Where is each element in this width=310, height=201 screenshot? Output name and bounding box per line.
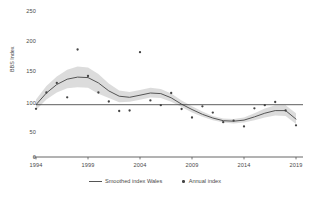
data-point xyxy=(284,109,286,111)
data-point xyxy=(35,108,37,110)
y-tick-label-50: 50 xyxy=(20,129,36,135)
data-point xyxy=(56,82,58,84)
data-point xyxy=(108,100,110,102)
data-point xyxy=(170,92,172,94)
data-point xyxy=(243,125,245,127)
data-point xyxy=(295,124,297,126)
data-point xyxy=(201,105,203,107)
chart-legend: Smoothed index Wales Annual index xyxy=(0,178,310,185)
y-axis-title: BBS Index xyxy=(9,32,15,72)
dot-swatch-icon xyxy=(182,180,184,182)
data-point xyxy=(149,99,151,101)
data-point xyxy=(222,121,224,123)
data-point xyxy=(264,104,266,106)
x-tick-label-2019: 2019 xyxy=(285,162,307,168)
line-swatch-icon xyxy=(89,181,102,182)
data-point xyxy=(232,119,234,121)
data-point xyxy=(128,109,130,111)
x-tick-label-1994: 1994 xyxy=(25,162,47,168)
y-tick-label-0: 0 xyxy=(20,154,36,160)
data-point xyxy=(253,107,255,109)
data-point xyxy=(118,110,120,112)
chart-plot-area xyxy=(0,0,310,201)
data-point xyxy=(139,51,141,53)
x-tick-label-2014: 2014 xyxy=(233,162,255,168)
y-tick-label-100: 100 xyxy=(20,100,36,106)
x-tick-label-2004: 2004 xyxy=(129,162,151,168)
x-tick-label-2009: 2009 xyxy=(181,162,203,168)
data-point xyxy=(160,104,162,106)
data-point xyxy=(45,91,47,93)
legend-label-smoothed-index: Smoothed index Wales xyxy=(105,178,162,185)
data-point xyxy=(66,96,68,98)
y-tick-label-150: 150 xyxy=(20,68,36,74)
data-point xyxy=(212,111,214,113)
data-point xyxy=(191,116,193,118)
data-point xyxy=(274,101,276,103)
data-point xyxy=(87,75,89,77)
y-tick-label-250: 250 xyxy=(20,8,36,14)
data-point xyxy=(76,48,78,50)
legend-item-smoothed-index: Smoothed index Wales xyxy=(89,178,162,185)
data-point xyxy=(180,108,182,110)
x-tick-label-1999: 1999 xyxy=(77,162,99,168)
bbs-index-chart: BBS Index 250 200 150 100 50 0 1994 1999… xyxy=(0,0,310,201)
legend-item-annual-index: Annual index xyxy=(182,178,221,185)
y-tick-label-200: 200 xyxy=(20,38,36,44)
data-point xyxy=(97,91,99,93)
legend-label-annual-index: Annual index xyxy=(189,178,221,185)
